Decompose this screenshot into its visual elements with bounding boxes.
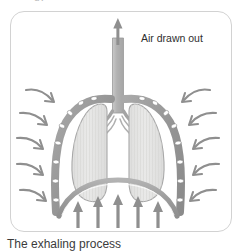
right-pressure-arrow-5 xyxy=(190,190,216,201)
diagram-page: gy xyxy=(0,0,250,251)
diaphragm-arrow-1 xyxy=(73,201,83,228)
air-drawn-out-label: Air drawn out xyxy=(141,32,203,44)
left-pressure-arrow-1 xyxy=(26,89,54,102)
left-pressure-arrow-4 xyxy=(17,164,43,175)
figure-caption: The exhaling process xyxy=(7,237,121,251)
trachea xyxy=(113,38,124,113)
left-pressure-arrow-2 xyxy=(20,113,47,125)
clipped-heading-fragment: gy xyxy=(34,0,45,1)
left-pressure-arrow-5 xyxy=(20,190,46,201)
right-pressure-arrow-1 xyxy=(182,89,210,102)
exhaling-process-illustration xyxy=(11,12,232,232)
left-pressure-arrows xyxy=(17,89,54,201)
right-pressure-arrows xyxy=(182,89,219,201)
right-pressure-arrow-3 xyxy=(193,138,219,149)
right-pressure-arrow-4 xyxy=(193,164,219,175)
figure-frame: Air drawn out xyxy=(10,11,232,232)
diaphragm-arrow-3 xyxy=(113,194,123,228)
left-pressure-arrow-3 xyxy=(17,138,43,149)
diaphragm-arrow-5 xyxy=(153,201,163,228)
right-pressure-arrow-2 xyxy=(189,113,216,125)
